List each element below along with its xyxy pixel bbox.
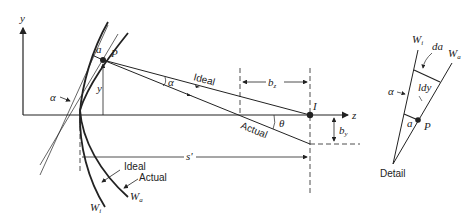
label-I: I: [312, 100, 318, 112]
ideal-wavefront-label: Ideal: [124, 161, 146, 172]
detail-P-label: P: [423, 120, 431, 132]
alpha-ray-label: α: [168, 76, 174, 88]
by-label: by: [339, 124, 349, 138]
detail-da-pointer: [423, 53, 432, 68]
detail-inset: Wi Wa da ldy α a P Detail: [380, 33, 461, 179]
detail-Wi-label: Wi: [412, 33, 423, 47]
detail-da-label: da: [432, 40, 444, 52]
coordinate-axes: y z: [19, 12, 357, 121]
actual-ray-label: Actual: [239, 120, 269, 141]
label-a: a: [96, 43, 102, 55]
actual-ray: [103, 60, 310, 144]
alpha-left-pointer: [60, 97, 70, 101]
detail-Wa-label: Wa: [448, 47, 461, 61]
s-prime-label: s': [186, 150, 193, 162]
detail-alpha-pointer: [397, 92, 405, 94]
detail-Wi-line: [393, 50, 418, 164]
Wa-label: Wa: [130, 190, 143, 204]
detail-ldy-tick: [419, 96, 422, 101]
theta-label: θ: [279, 117, 285, 129]
optics-diagram: y z a P y Ideal Actual α θ I bz by: [0, 0, 475, 222]
actual-ray-arrow: [187, 93, 192, 96]
detail-title: Detail: [380, 168, 406, 179]
detail-Wa-line: [393, 63, 452, 164]
z-axis-label: z: [351, 109, 357, 121]
actual-wavefront-label: Actual: [139, 172, 167, 183]
label-P: P: [110, 47, 118, 59]
y-dimension-label: y: [96, 82, 102, 94]
y-axis-label: y: [19, 12, 25, 24]
detail-alpha-label: α: [388, 85, 394, 97]
actual-wavefront-pointer: [124, 179, 138, 188]
detail-point-P: [415, 117, 421, 123]
detail-a-label: a: [407, 117, 413, 129]
theta-arc: [273, 115, 275, 129]
Wi-label: Wi: [90, 201, 101, 215]
ideal-ray: [103, 60, 310, 115]
detail-ldy-label: ldy: [418, 81, 432, 93]
alpha-left-label: α: [50, 91, 56, 103]
